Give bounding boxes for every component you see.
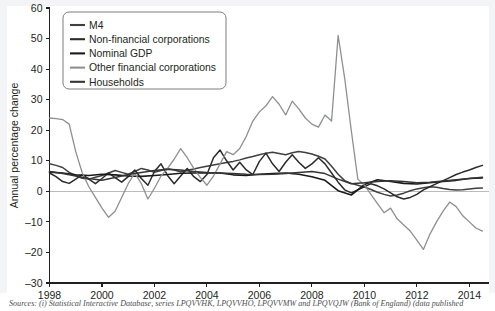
y-tick-label: –20 <box>25 246 43 258</box>
y-tick-label: 10 <box>31 154 43 166</box>
line-chart-plot: 6050403020100–10–20–30Annual percentage … <box>0 0 495 311</box>
y-axis: 6050403020100–10–20–30 <box>25 2 50 289</box>
y-tick-label: 20 <box>31 124 43 136</box>
chart-figure: 6050403020100–10–20–30Annual percentage … <box>0 0 495 311</box>
y-tick-label: 50 <box>31 32 43 44</box>
y-tick-label: –10 <box>25 216 43 228</box>
source-note: Sources: (i) Statistical Interactive Dat… <box>9 299 495 309</box>
y-tick-label: 30 <box>31 93 43 105</box>
chart-legend: M4Non-financial corporationsNominal GDPO… <box>63 12 226 89</box>
legend-label-m4: M4 <box>89 20 104 31</box>
legend-label-households: Households <box>89 77 144 88</box>
y-axis-title: Annual percentage change <box>8 83 20 209</box>
y-tick-label: 60 <box>31 2 43 14</box>
y-tick-label: –30 <box>25 277 43 289</box>
legend-label-other-financial-corporations: Other financial corporations <box>89 62 216 73</box>
y-tick-label: 40 <box>31 63 43 75</box>
legend-label-non-financial-corporations: Non-financial corporations <box>89 34 210 45</box>
y-tick-label: 0 <box>37 185 43 197</box>
legend-label-nominal-gdp: Nominal GDP <box>89 48 153 59</box>
x-axis: 199820002002200420062008201020122014 <box>38 283 489 301</box>
